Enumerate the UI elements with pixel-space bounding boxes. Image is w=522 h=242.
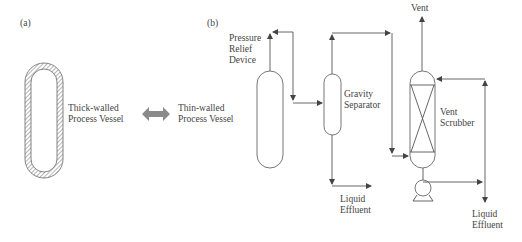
thick-walled-vessel — [25, 63, 63, 178]
diagram-canvas: (a) Thick-walled Process Vessel Thin-wal… — [0, 0, 522, 242]
panel-a-label: (a) — [20, 18, 31, 29]
thin-vessel-label-2: Process Vessel — [178, 114, 234, 124]
panel-a: (a) Thick-walled Process Vessel Thin-wal… — [20, 18, 234, 178]
thick-vessel-label-2: Process Vessel — [68, 114, 124, 124]
vent-scrubber-label-1: Vent — [440, 107, 458, 117]
thin-walled-vessel — [257, 71, 283, 168]
panel-b-label: (b) — [207, 18, 218, 29]
thick-vessel-label-1: Thick-walled — [68, 103, 119, 113]
double-arrow-icon — [142, 107, 170, 121]
vent-label: Vent — [411, 3, 429, 13]
vent-scrubber — [410, 71, 435, 168]
gravity-separator — [324, 74, 341, 135]
thin-vessel-label-1: Thin-walled — [178, 103, 225, 113]
liquid-effluent-1-label-2: Effluent — [340, 205, 371, 215]
gravity-separator-label-2: Separator — [344, 100, 381, 110]
pressure-relief-label-1: Pressure — [229, 33, 261, 43]
pump-icon — [413, 180, 433, 201]
liquid-effluent-1-label-1: Liquid — [340, 194, 366, 204]
gravity-separator-label-1: Gravity — [344, 89, 373, 99]
vent-scrubber-label-2: Scrubber — [440, 118, 475, 128]
liquid-effluent-2-label-2: Effluent — [472, 220, 503, 230]
pressure-relief-label-3: Device — [229, 55, 256, 65]
panel-b: (b) Pressure Relief Device Gravity Separ… — [207, 3, 503, 230]
pressure-relief-label-2: Relief — [229, 44, 253, 54]
liquid-effluent-2-label-1: Liquid — [472, 209, 498, 219]
